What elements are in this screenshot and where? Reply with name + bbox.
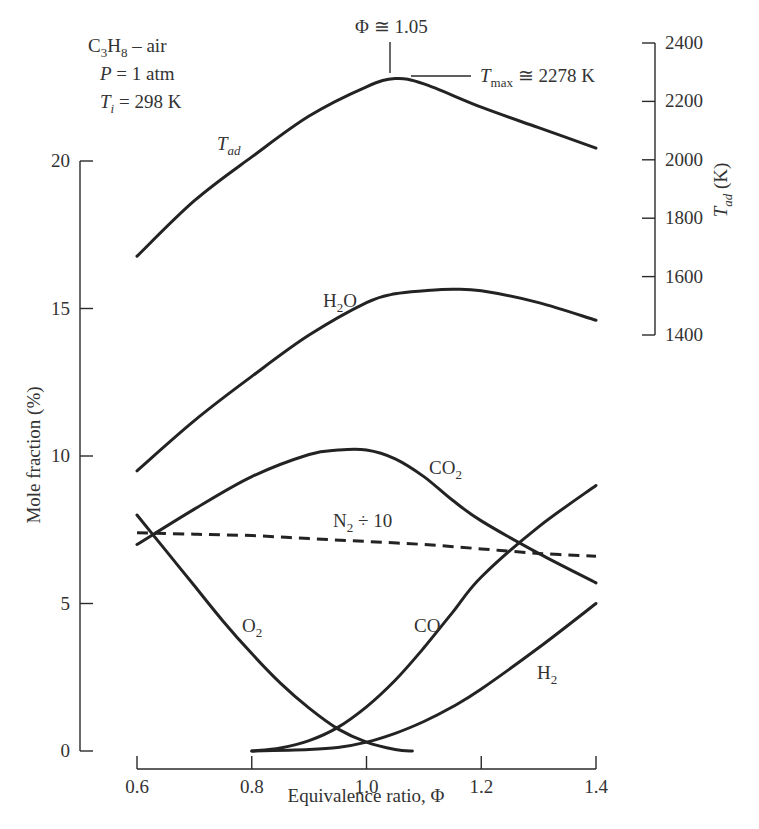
label-co2: CO2: [429, 457, 462, 482]
y2-tick-label: 1800: [665, 207, 703, 228]
y2-tick-label: 1600: [665, 266, 703, 287]
svg-text:P = 1 atm: P = 1 atm: [99, 63, 175, 84]
phi-peak-label: Φ ≅ 1.05: [355, 16, 428, 37]
y2-axis-title: Tad (K): [710, 163, 735, 218]
svg-text:C3H8 – air: C3H8 – air: [88, 35, 167, 60]
curve-h2o: [137, 289, 596, 471]
y2-tick-label: 2000: [665, 149, 703, 170]
label-co: CO: [414, 615, 440, 636]
x-tick-label: 1.4: [584, 776, 608, 797]
y-tick-label: 0: [61, 740, 71, 761]
y-tick-label: 15: [51, 298, 70, 319]
x-tick-label: 1.2: [469, 776, 493, 797]
chart: 05101520 140016001800200022002400 0.60.8…: [0, 0, 759, 829]
y-tick-label: 5: [61, 593, 71, 614]
svg-text:Ti = 298 K: Ti = 298 K: [100, 91, 182, 116]
series-curves: [137, 78, 596, 751]
series-labels: Tad H2O CO2 N2 ÷ 10 O2 CO H2: [217, 133, 557, 687]
left-axis: 05101520: [51, 150, 93, 761]
x-tick-label: 0.8: [240, 776, 264, 797]
tmax-label: Tmax ≅ 2278 K: [480, 65, 595, 90]
y2-tick-label: 2400: [665, 32, 703, 53]
x-axis-title: Equivalence ratio, Φ: [288, 785, 445, 806]
curve-o2: [137, 515, 412, 751]
y2-tick-label: 2200: [665, 90, 703, 111]
right-axis: 140016001800200022002400: [642, 32, 703, 345]
conditions-annotation: C3H8 – air P = 1 atm Ti = 298 K: [88, 35, 182, 116]
y-tick-label: 20: [51, 150, 70, 171]
label-h2: H2: [537, 662, 557, 687]
curve-tad: [137, 78, 596, 256]
label-n2: N2 ÷ 10: [333, 510, 392, 535]
x-tick-label: 0.6: [125, 776, 149, 797]
y-tick-label: 10: [51, 445, 70, 466]
label-tad: Tad: [217, 133, 241, 158]
y-axis-title: Mole fraction (%): [23, 386, 45, 523]
label-o2: O2: [242, 615, 262, 640]
y2-tick-label: 1400: [665, 324, 703, 345]
